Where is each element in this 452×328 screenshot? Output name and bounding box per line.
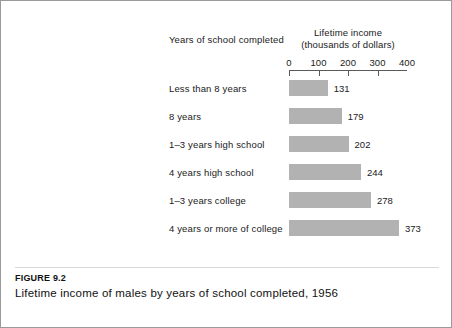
- bar: [289, 108, 342, 124]
- bar-category-label: 4 years high school: [169, 167, 254, 178]
- bar-row: 1–3 years high school202: [1, 135, 452, 163]
- bar: [289, 192, 371, 208]
- x-axis: 0100200300400: [289, 57, 407, 75]
- value-axis-header-line1: Lifetime income: [314, 27, 382, 38]
- x-axis-tick: [289, 70, 290, 76]
- x-axis-tick: [348, 70, 349, 76]
- x-axis-tick-label: 400: [399, 57, 415, 68]
- bar-category-label: 1–3 years high school: [169, 139, 265, 150]
- bar-rows: Less than 8 years1318 years1791–3 years …: [1, 79, 452, 247]
- x-axis-tick-label: 0: [286, 57, 291, 68]
- bar-value-label: 278: [377, 195, 393, 206]
- bar-category-label: Less than 8 years: [169, 83, 247, 94]
- caption-divider: [15, 267, 439, 268]
- bar-value-label: 179: [348, 111, 364, 122]
- bar-row: Less than 8 years131: [1, 79, 452, 107]
- bar-category-label: 8 years: [169, 111, 201, 122]
- bar-category-label: 4 years or more of college: [169, 223, 283, 234]
- bar-value-label: 373: [405, 223, 421, 234]
- bar-value-label: 202: [355, 139, 371, 150]
- bar: [289, 136, 349, 152]
- bar: [289, 80, 328, 96]
- bar-value-label: 244: [367, 167, 383, 178]
- x-axis-tick-label: 100: [311, 57, 327, 68]
- bar-row: 4 years high school244: [1, 163, 452, 191]
- category-column-header: Years of school completed: [169, 34, 284, 45]
- x-axis-tick-label: 200: [340, 57, 356, 68]
- bar-row: 8 years179: [1, 107, 452, 135]
- bar: [289, 164, 361, 180]
- bar: [289, 220, 399, 236]
- value-axis-header-line2: (thousands of dollars): [289, 39, 407, 51]
- figure-container: Years of school completed Lifetime incom…: [0, 0, 452, 328]
- figure-caption: FIGURE 9.2 Lifetime income of males by y…: [15, 273, 439, 299]
- x-axis-tick: [319, 70, 320, 76]
- figure-number: FIGURE 9.2: [15, 273, 439, 283]
- bar-value-label: 131: [334, 83, 350, 94]
- x-axis-tick-label: 300: [370, 57, 386, 68]
- bar-row: 4 years or more of college373: [1, 219, 452, 247]
- figure-caption-text: Lifetime income of males by years of sch…: [15, 287, 439, 299]
- bar-row: 1–3 years college278: [1, 191, 452, 219]
- bar-category-label: 1–3 years college: [169, 195, 246, 206]
- value-axis-header: Lifetime income (thousands of dollars): [289, 27, 407, 51]
- x-axis-tick: [378, 70, 379, 76]
